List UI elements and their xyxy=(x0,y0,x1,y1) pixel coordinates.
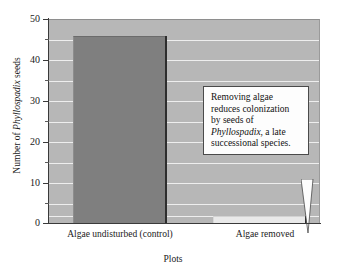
y-tick-40 xyxy=(43,60,49,61)
callout-line-2: reduces colonization xyxy=(211,104,289,114)
callout-line-5: successional species. xyxy=(211,138,291,148)
y-tick-label-50: 50 xyxy=(18,14,40,24)
y-axis-title: Number of Phyllospadix seeds xyxy=(12,36,23,196)
annotation-callout: Removing algae reduces colonization by s… xyxy=(203,86,309,155)
y-axis-title-italic: Phyllospadix xyxy=(12,80,22,130)
y-tick-minor-25 xyxy=(45,121,49,122)
x-category-label-control: Algae undisturbed (control) xyxy=(40,229,200,240)
y-tick-30 xyxy=(43,101,49,102)
x-axis-title: Plots xyxy=(0,254,346,265)
y-tick-minor-45 xyxy=(45,39,49,40)
figure-container: 50 40 30 20 10 0 Removing algae reduces … xyxy=(0,0,346,276)
y-tick-minor-35 xyxy=(45,80,49,81)
x-axis-line xyxy=(48,223,321,224)
bar-algae-undisturbed-control[interactable] xyxy=(73,36,165,224)
callout-line-4-rest: , a late xyxy=(261,127,286,137)
x-category-label-removed: Algae removed xyxy=(190,229,340,240)
y-tick-20 xyxy=(43,142,49,143)
callout-line-4-italic: Phyllospadix xyxy=(211,127,261,137)
y-tick-minor-15 xyxy=(45,162,49,163)
y-axis-title-prefix: Number of xyxy=(12,130,22,174)
callout-line-3: by seeds of xyxy=(211,115,254,125)
callout-pointer-icon xyxy=(301,179,315,233)
y-axis-title-suffix: seeds xyxy=(12,57,22,80)
y-tick-10 xyxy=(43,183,49,184)
y-tick-0 xyxy=(43,223,49,224)
y-tick-50 xyxy=(43,19,49,20)
callout-line-1: Removing algae xyxy=(211,92,273,102)
y-tick-minor-5 xyxy=(45,203,49,204)
y-tick-label-0: 0 xyxy=(18,218,40,228)
